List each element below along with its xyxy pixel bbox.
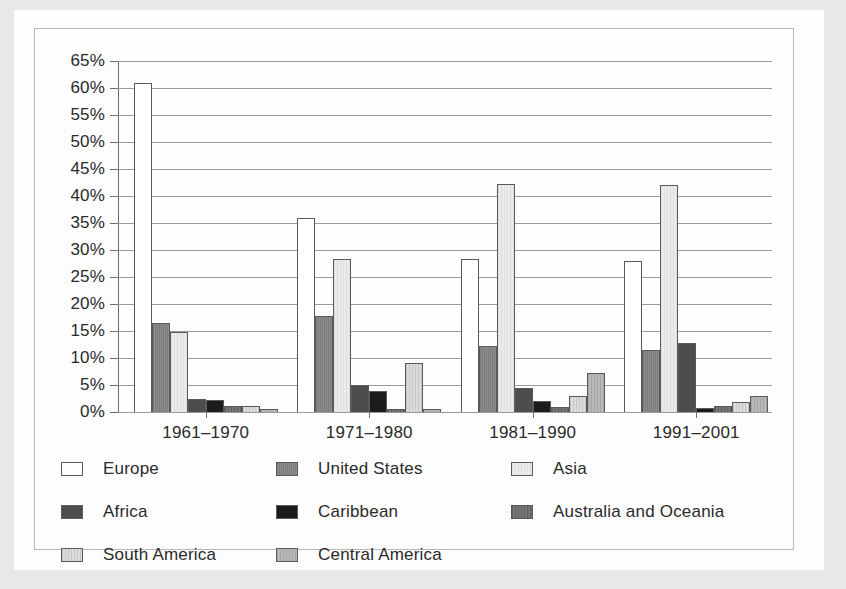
- bar-central[interactable]: [260, 409, 278, 412]
- bar-central[interactable]: [750, 396, 768, 412]
- bar-asia[interactable]: [660, 185, 678, 412]
- legend-item-europe[interactable]: Europe: [61, 459, 276, 479]
- y-axis-tick: [110, 358, 118, 359]
- y-axis-tick: [110, 304, 118, 305]
- bar-asia[interactable]: [170, 332, 188, 412]
- bar-south[interactable]: [732, 402, 750, 412]
- bar-south[interactable]: [405, 363, 423, 412]
- y-axis-tick: [110, 412, 118, 413]
- legend-item-us[interactable]: United States: [276, 459, 511, 479]
- bar-group: 1991–2001: [624, 61, 768, 412]
- y-axis-tick: [110, 142, 118, 143]
- legend-label-europe: Europe: [103, 459, 159, 479]
- bar-carib[interactable]: [206, 400, 224, 412]
- legend-swatch-africa: [61, 505, 83, 519]
- legend-item-aus[interactable]: Australia and Oceania: [511, 502, 771, 522]
- y-axis-tick: [110, 61, 118, 62]
- y-axis-line: [118, 61, 119, 413]
- bar-asia[interactable]: [333, 259, 351, 412]
- x-axis-tick: [206, 412, 207, 418]
- legend-item-africa[interactable]: Africa: [61, 502, 276, 522]
- bar-us[interactable]: [152, 323, 170, 412]
- bar-us[interactable]: [642, 350, 660, 412]
- legend-label-asia: Asia: [553, 459, 587, 479]
- bar-aus[interactable]: [714, 406, 732, 412]
- bar-aus[interactable]: [551, 407, 569, 412]
- bar-europe[interactable]: [624, 261, 642, 412]
- y-axis-tick: [110, 88, 118, 89]
- bar-us[interactable]: [315, 316, 333, 412]
- bar-carib[interactable]: [696, 408, 714, 412]
- legend-item-carib[interactable]: Caribbean: [276, 502, 511, 522]
- y-axis-label: 10%: [70, 348, 105, 368]
- bar-group-bars: [624, 61, 768, 412]
- bar-asia[interactable]: [497, 184, 515, 412]
- y-axis-tick: [110, 223, 118, 224]
- bar-carib[interactable]: [533, 401, 551, 412]
- chart-legend: EuropeUnited StatesAsiaAfricaCaribbeanAu…: [35, 459, 795, 565]
- bar-group: 1961–1970: [134, 61, 278, 412]
- y-axis-label: 5%: [80, 375, 105, 395]
- x-axis-label: 1961–1970: [162, 423, 249, 443]
- legend-swatch-central: [276, 548, 298, 562]
- legend-swatch-south: [61, 548, 83, 562]
- chart-frame: 65%60%55%50%45%40%35%30%25%20%15%10%5%0%…: [34, 28, 794, 550]
- bar-carib[interactable]: [369, 391, 387, 412]
- bar-africa[interactable]: [678, 343, 696, 412]
- y-axis-label: 35%: [70, 213, 105, 233]
- y-axis-label: 60%: [70, 78, 105, 98]
- legend-label-central: Central America: [318, 545, 442, 565]
- page-background: 65%60%55%50%45%40%35%30%25%20%15%10%5%0%…: [14, 10, 824, 570]
- gridline: [118, 412, 772, 413]
- y-axis-label: 50%: [70, 132, 105, 152]
- legend-item-south[interactable]: South America: [61, 545, 276, 565]
- bar-africa[interactable]: [351, 385, 369, 412]
- legend-item-asia[interactable]: Asia: [511, 459, 771, 479]
- legend-item-central[interactable]: Central America: [276, 545, 511, 565]
- bar-aus[interactable]: [224, 406, 242, 412]
- bar-europe[interactable]: [297, 218, 315, 412]
- bar-south[interactable]: [242, 406, 260, 412]
- legend-label-aus: Australia and Oceania: [553, 502, 724, 522]
- plot-canvas: 65%60%55%50%45%40%35%30%25%20%15%10%5%0%…: [118, 61, 772, 413]
- bar-aus[interactable]: [387, 409, 405, 412]
- bar-europe[interactable]: [134, 83, 152, 412]
- legend-label-south: South America: [103, 545, 216, 565]
- legend-row: EuropeUnited StatesAsia: [61, 459, 795, 479]
- y-axis-tick: [110, 250, 118, 251]
- x-axis-tick: [696, 412, 697, 418]
- bar-central[interactable]: [423, 409, 441, 412]
- y-axis-tick: [110, 385, 118, 386]
- bar-central[interactable]: [587, 373, 605, 412]
- y-axis-tick: [110, 115, 118, 116]
- legend-swatch-aus: [511, 505, 533, 519]
- legend-swatch-europe: [61, 462, 83, 476]
- x-axis-label: 1991–2001: [653, 423, 740, 443]
- x-axis-label: 1971–1980: [326, 423, 413, 443]
- legend-label-carib: Caribbean: [318, 502, 398, 522]
- x-axis-label: 1981–1990: [489, 423, 576, 443]
- bar-group: 1971–1980: [297, 61, 441, 412]
- y-axis-label: 40%: [70, 186, 105, 206]
- bar-group-bars: [461, 61, 605, 412]
- bar-africa[interactable]: [188, 399, 206, 413]
- bar-south[interactable]: [569, 396, 587, 412]
- bar-group-bars: [134, 61, 278, 412]
- bar-africa[interactable]: [515, 388, 533, 412]
- legend-swatch-us: [276, 462, 298, 476]
- y-axis-label: 0%: [80, 402, 105, 422]
- x-axis-tick: [533, 412, 534, 418]
- bar-us[interactable]: [479, 346, 497, 412]
- y-axis-tick: [110, 169, 118, 170]
- y-axis-label: 55%: [70, 105, 105, 125]
- y-axis-label: 45%: [70, 159, 105, 179]
- y-axis-tick: [110, 277, 118, 278]
- y-axis-label: 30%: [70, 240, 105, 260]
- legend-label-us: United States: [318, 459, 423, 479]
- bar-group-bars: [297, 61, 441, 412]
- bar-group: 1981–1990: [461, 61, 605, 412]
- bar-europe[interactable]: [461, 259, 479, 412]
- legend-row: AfricaCaribbeanAustralia and Oceania: [61, 502, 795, 522]
- y-axis-tick: [110, 196, 118, 197]
- y-axis-tick: [110, 331, 118, 332]
